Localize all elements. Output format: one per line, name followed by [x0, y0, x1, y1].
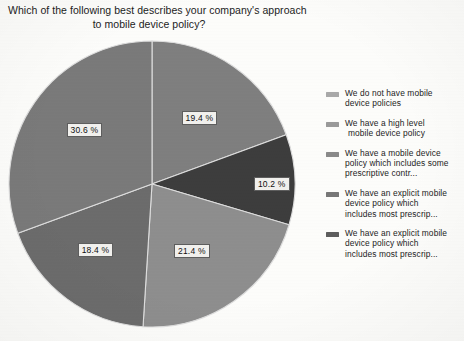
- chart-title-line-1: Which of the following best describes yo…: [6, 4, 336, 18]
- pie-slice-value-label: 21.4 %: [174, 244, 210, 258]
- legend-item-label-line: We have an explicit mobile: [345, 188, 447, 198]
- chart-legend: We do not have mobiledevice policiesWe h…: [326, 88, 462, 268]
- pie-slice-value-label: 19.4 %: [182, 111, 218, 125]
- legend-item-label: We have a mobile devicepolicy which incl…: [345, 148, 449, 179]
- legend-item-label-line: device policies: [345, 98, 433, 108]
- legend-item-label: We have an explicit mobiledevice policy …: [345, 228, 447, 259]
- legend-item[interactable]: We do not have mobiledevice policies: [326, 88, 462, 109]
- legend-swatch-icon: [326, 92, 339, 97]
- pie-svg: [8, 40, 296, 328]
- legend-swatch-icon: [326, 192, 339, 197]
- pie-slice-value-label: 10.2 %: [254, 177, 290, 191]
- pie-slice-value-label: 18.4 %: [78, 243, 114, 257]
- chart-title-line-2: to mobile device policy?: [6, 18, 336, 32]
- pie-chart: [8, 40, 296, 328]
- legend-item-label-line: mobile device policy: [345, 128, 425, 138]
- chart-title: Which of the following best describes yo…: [6, 4, 336, 31]
- legend-item-label-line: We do not have mobile: [345, 88, 433, 98]
- legend-item[interactable]: We have an explicit mobiledevice policy …: [326, 228, 462, 259]
- legend-item-label-line: We have an explicit mobile: [345, 228, 447, 238]
- legend-item[interactable]: We have an explicit mobiledevice policy …: [326, 188, 462, 219]
- legend-item[interactable]: We have a mobile devicepolicy which incl…: [326, 148, 462, 179]
- legend-swatch-icon: [326, 232, 339, 237]
- legend-item-label: We have a high levelmobile device policy: [345, 118, 425, 139]
- legend-item[interactable]: We have a high levelmobile device policy: [326, 118, 462, 139]
- legend-item-label-line: policy which includes some: [345, 158, 449, 168]
- pie-slice-group: [9, 41, 295, 327]
- legend-swatch-icon: [326, 122, 339, 127]
- legend-item-label-line: device policy which: [345, 238, 447, 248]
- legend-item-label-line: We have a mobile device: [345, 148, 449, 158]
- pie-chart-area: 19.4 %10.2 %21.4 %18.4 %30.6 %: [0, 34, 320, 341]
- legend-item-label-line: includes most prescrip...: [345, 249, 447, 259]
- legend-item-label-line: We have a high level: [345, 118, 425, 128]
- legend-item-label-line: prescriptive contr...: [345, 168, 449, 178]
- legend-item-label: We do not have mobiledevice policies: [345, 88, 433, 109]
- pie-slice-value-label: 30.6 %: [67, 123, 103, 137]
- legend-swatch-icon: [326, 152, 339, 157]
- legend-item-label-line: device policy which: [345, 198, 447, 208]
- legend-item-label: We have an explicit mobiledevice policy …: [345, 188, 447, 219]
- legend-item-label-line: includes most prescrip...: [345, 209, 447, 219]
